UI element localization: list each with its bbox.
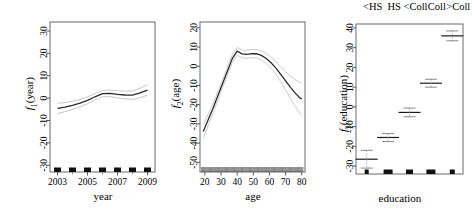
panel-age-rug: [202, 167, 303, 172]
panel-year-x-tick-label: 2003: [48, 177, 67, 186]
panel-year: f1(year) 3020100-10-20-30200320052007200…: [0, 0, 160, 212]
panel-year-x-tick-label: 2007: [108, 177, 127, 186]
panel-year-y-axis-title: f1(year): [23, 59, 38, 129]
panel-age-x-tick-label: 20: [200, 177, 210, 186]
panel-education-frame: [356, 24, 463, 174]
panel-year-y-tick-label: -10: [39, 114, 49, 127]
panel-education-rug-mark: [450, 170, 455, 175]
panel-age-ci-upper: [203, 47, 302, 125]
panel-age-x-tick-label: 70: [281, 177, 291, 186]
panel-year-y-tick-label: 10: [39, 71, 49, 81]
panel-education-plot: 403020100-10-20-30: [310, 0, 472, 186]
panel-age-x-tick-label: 50: [249, 177, 259, 186]
panel-education-y-axis-f: f: [337, 129, 349, 132]
panel-education-rug-mark: [406, 170, 413, 175]
panel-year-x-axis-title: year: [50, 190, 156, 202]
panel-age-y-tick-label: -20: [189, 98, 199, 111]
panel-year-rug-mark: [69, 168, 76, 173]
panel-age-x-tick-label: 30: [216, 177, 226, 186]
panel-education-rug-mark: [384, 170, 393, 175]
panel-education-y-axis-arg: (education): [337, 75, 349, 125]
panel-education-effect-marker: [420, 79, 442, 87]
panel-age-x-axis-title: age: [200, 190, 306, 202]
panel-education-effect-marker: [399, 108, 421, 117]
panel-education-top-label: >Coll: [445, 1, 471, 12]
panel-education-effect-marker: [441, 31, 463, 41]
panel-age-y-axis-title: f2(age): [169, 59, 184, 129]
panel-age-y-tick-label: -40: [189, 137, 199, 150]
panel-age-y-tick-label: -30: [189, 117, 199, 130]
panel-year-y-axis-arg: (year): [23, 77, 35, 103]
panel-education-effect-marker: [356, 150, 378, 168]
panel-year-y-axis-index: 1: [30, 103, 39, 107]
panel-age: f2(age) 20100-10-20-30-40-50203040506070…: [150, 0, 315, 212]
panel-education-y-tick-label: 40: [345, 23, 355, 33]
panel-education-top-label: <Coll: [403, 1, 429, 12]
panel-year-rug-mark: [84, 168, 91, 173]
panel-age-y-axis-arg: (age): [169, 79, 181, 102]
panel-year-y-tick-label: -30: [39, 159, 49, 172]
panel-age-y-axis-f: f: [169, 105, 181, 108]
panel-age-x-tick-label: 40: [232, 177, 242, 186]
panel-education-rug-mark: [365, 170, 369, 175]
gam-partial-effect-plots: f1(year) 3020100-10-20-30200320052007200…: [0, 0, 472, 212]
panel-year-y-tick-label: 20: [39, 48, 49, 58]
panel-education-y-tick-label: -30: [345, 160, 355, 173]
panel-year-rug-mark: [99, 168, 106, 173]
panel-education-effect-marker: [377, 134, 399, 142]
panel-education-top-label: HS: [385, 1, 403, 12]
panel-education-top-label: <HS: [363, 1, 383, 12]
panel-age-y-tick-label: -50: [189, 156, 199, 169]
panel-year-y-tick-label: 0: [39, 95, 49, 100]
panel-year-rug-mark: [114, 168, 121, 173]
panel-age-x-tick-label: 60: [265, 177, 275, 186]
panel-year-x-tick-label: 2005: [78, 177, 97, 186]
panel-year-ci-lower: [58, 95, 148, 113]
panel-year-rug-mark: [129, 168, 136, 173]
panel-age-x-tick-label: 80: [297, 177, 307, 186]
panel-year-rug-mark: [54, 168, 61, 173]
panel-age-y-tick-label: 10: [189, 42, 199, 52]
panel-age-y-tick-label: 0: [189, 64, 199, 69]
panel-age-y-tick-label: 20: [189, 23, 199, 33]
panel-year-y-tick-label: 30: [39, 26, 49, 36]
panel-education-x-axis-title: education: [340, 192, 460, 204]
panel-education-y-axis-index: 3: [344, 125, 353, 129]
panel-education-y-axis-title: f3(education): [337, 49, 352, 159]
panel-education: <HSHS<CollColl>Coll f3(education) 403020…: [310, 0, 472, 212]
panel-education-rug-mark: [426, 170, 435, 175]
panel-year-y-tick-label: -20: [39, 136, 49, 149]
panel-age-y-axis-index: 2: [176, 101, 185, 105]
panel-age-y-tick-label: -10: [189, 79, 199, 92]
